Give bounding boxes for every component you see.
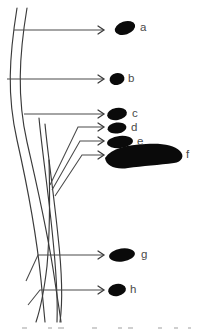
diagram-canvas: a b c d e f g h <box>0 0 199 331</box>
figure-container: a b c d e f g h <box>0 0 199 331</box>
structure-label-b: b <box>128 72 134 84</box>
structure-label-d: d <box>131 121 137 133</box>
structure-label-h: h <box>130 283 136 295</box>
structure-label-e: e <box>137 135 143 147</box>
structure-label-g: g <box>141 248 147 260</box>
figure-background <box>0 0 199 331</box>
structure-label-c: c <box>132 107 138 119</box>
structure-label-a: a <box>140 21 147 33</box>
